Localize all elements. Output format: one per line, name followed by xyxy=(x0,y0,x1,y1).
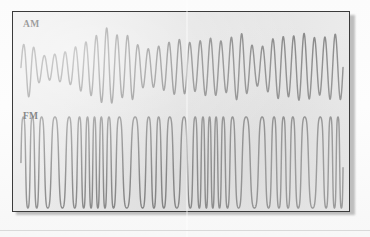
fm-waveform-trace xyxy=(21,117,343,208)
am-waveform-label: AM xyxy=(23,20,39,30)
figure-root: AM FM xyxy=(0,0,370,237)
page-bottom-rule xyxy=(0,230,370,231)
fm-waveform-label: FM xyxy=(23,112,38,122)
waveform-plot xyxy=(13,12,349,211)
am-waveform-trace xyxy=(21,28,343,103)
waveform-figure-frame: AM FM xyxy=(12,11,350,212)
